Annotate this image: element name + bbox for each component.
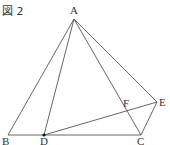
label-B: B (2, 135, 9, 145)
label-F: F (123, 97, 129, 109)
geometry-diagram: 図 2 A B D C E F (0, 0, 170, 145)
segment-AB (8, 19, 74, 135)
label-E: E (159, 96, 166, 108)
segment-AC (74, 19, 141, 135)
segment-AE (74, 19, 157, 102)
label-A: A (70, 4, 78, 16)
segment-DE (44, 102, 157, 135)
segment-CE (141, 102, 157, 135)
segment-AD (44, 19, 74, 135)
label-C: C (137, 135, 144, 145)
figure-title: 図 2 (2, 5, 24, 18)
label-D: D (40, 135, 48, 145)
